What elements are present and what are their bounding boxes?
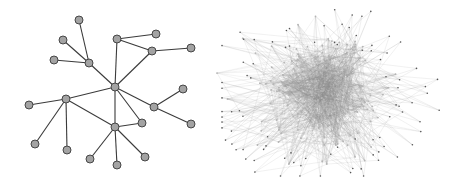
graph-node <box>75 16 83 24</box>
sparse-network-graph <box>0 0 457 181</box>
graph-node <box>152 30 160 38</box>
graph-edge <box>115 87 142 123</box>
graph-node <box>25 101 33 109</box>
graph-edge <box>115 127 117 165</box>
graph-node <box>138 119 146 127</box>
graph-edge <box>154 107 191 124</box>
graph-edge <box>66 99 115 127</box>
graph-node <box>111 83 119 91</box>
graph-node <box>86 155 94 163</box>
graph-node <box>63 146 71 154</box>
graph-edge <box>115 127 145 157</box>
nodes <box>25 16 195 169</box>
graph-edge <box>29 99 66 105</box>
graph-node <box>31 140 39 148</box>
graph-node <box>59 36 67 44</box>
graph-node <box>141 153 149 161</box>
graph-node <box>113 35 121 43</box>
graph-edge <box>89 63 115 87</box>
graph-edge <box>90 127 115 159</box>
graph-edge <box>79 20 89 63</box>
graph-edge <box>115 39 117 87</box>
graph-edge <box>66 99 67 150</box>
graph-edge <box>63 40 89 63</box>
graph-edge <box>152 48 191 51</box>
graph-edge <box>115 51 152 87</box>
graph-node <box>111 123 119 131</box>
graph-edge <box>154 89 183 107</box>
graph-edge <box>117 39 152 51</box>
graph-edge <box>66 87 115 99</box>
graph-edge <box>117 34 156 39</box>
edges <box>29 20 191 165</box>
graph-node <box>85 59 93 67</box>
graph-node <box>187 44 195 52</box>
figure <box>0 0 457 181</box>
graph-edge <box>54 60 89 63</box>
graph-node <box>187 120 195 128</box>
graph-edge <box>115 87 154 107</box>
graph-edge <box>35 99 66 144</box>
graph-node <box>150 103 158 111</box>
graph-node <box>148 47 156 55</box>
graph-node <box>113 161 121 169</box>
graph-node <box>62 95 70 103</box>
graph-node <box>179 85 187 93</box>
graph-node <box>50 56 58 64</box>
